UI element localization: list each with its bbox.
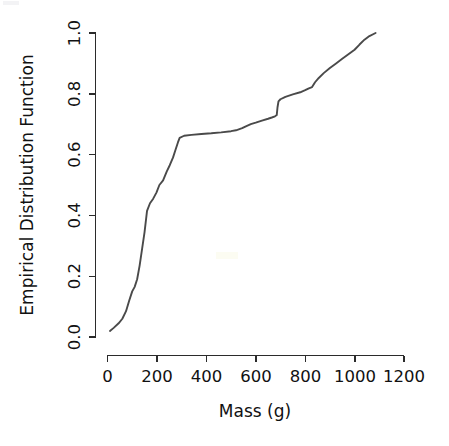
y-tick-label-2: 0.4 — [65, 202, 84, 228]
y-tick-label-0: 0.0 — [65, 324, 84, 350]
plot-canvas: 0.0 0.2 0.4 0.6 0.8 1.0 0 200 — [0, 0, 449, 446]
y-tick-label-5: 1.0 — [65, 20, 84, 46]
x-tick-label-3: 600 — [240, 367, 272, 386]
x-tick-label-4: 800 — [290, 367, 322, 386]
y-tick-label-4: 0.8 — [65, 81, 84, 107]
x-tick-label-0: 0 — [102, 367, 113, 386]
y-tick-label-1: 0.2 — [65, 263, 84, 289]
x-tick-label-1: 200 — [141, 367, 173, 386]
y-axis-title: Empirical Distribution Function — [17, 54, 37, 315]
x-tick-label-5: 1000 — [334, 367, 376, 386]
x-axis-title: Mass (g) — [219, 401, 291, 421]
y-tick-label-3: 0.6 — [65, 141, 84, 167]
x-tick-label-2: 400 — [191, 367, 223, 386]
x-tick-label-6: 1200 — [383, 367, 425, 386]
ecdf-chart-figure: 0.0 0.2 0.4 0.6 0.8 1.0 0 200 — [0, 0, 449, 446]
